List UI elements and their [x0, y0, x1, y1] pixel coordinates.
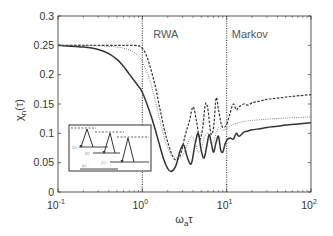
inset-level-a: |a⟩ [82, 163, 87, 168]
x-tick-label: 101 [217, 198, 233, 211]
y-tick-label: 0.25 [34, 39, 55, 51]
y-tick-label: 0.1 [39, 127, 54, 139]
y-tick-label: 0 [48, 186, 54, 198]
regime-boundary-lines [142, 16, 226, 192]
annotation-markov: Markov [232, 28, 269, 40]
y-tick-label: 0.15 [34, 98, 55, 110]
x-tick-label: 102 [301, 198, 317, 211]
chart-canvas: 00.050.10.150.20.250.3 10-1100101102 RWA… [0, 0, 333, 236]
annotations: RWAMarkov [153, 28, 268, 40]
inset-level-2: |2⟩ [85, 151, 90, 156]
y-tick-label: 0.05 [34, 156, 55, 168]
inset-level-3: |3⟩ [72, 145, 77, 150]
y-tick-label: 0.2 [39, 68, 54, 80]
inset-level-1: |1⟩ [101, 160, 106, 165]
y-tick-label: 0.3 [39, 10, 54, 22]
x-axis-label: ωaτ [175, 213, 193, 228]
annotation-rwa: RWA [153, 28, 179, 40]
y-axis-label: χn(τ) [13, 99, 28, 121]
x-tick-label: 100 [133, 198, 149, 211]
x-tick-label: 10-1 [47, 198, 65, 211]
inset-energy-diagram: |3⟩ |2⟩ |1⟩ |a⟩ [69, 125, 151, 171]
